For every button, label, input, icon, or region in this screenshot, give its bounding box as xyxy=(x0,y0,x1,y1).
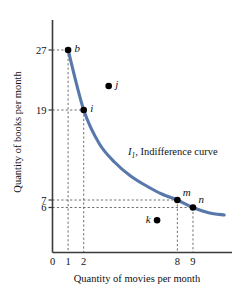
data-point-i xyxy=(80,107,87,114)
indifference-curve xyxy=(68,50,224,215)
y-tick-label-27: 27 xyxy=(36,45,47,56)
chart-canvas: 271976 01289 bijmnk I1, Indifference cur… xyxy=(0,0,237,288)
y-axis-title: Quantity of books per month xyxy=(12,71,23,193)
x-tick-label-8: 8 xyxy=(175,256,180,267)
data-point-b xyxy=(65,47,72,54)
x-tick-label-1: 1 xyxy=(65,256,70,267)
x-tick-label-2: 2 xyxy=(81,256,86,267)
data-point-k xyxy=(154,217,161,224)
data-point-n xyxy=(190,204,197,211)
data-points-group: bijmnk xyxy=(65,42,205,225)
curve-annotation-label: I1, Indifference curve xyxy=(127,146,218,160)
point-label-m: m xyxy=(183,186,191,198)
x-tick-label-0: 0 xyxy=(50,256,55,267)
point-label-n: n xyxy=(198,193,204,205)
point-label-k: k xyxy=(146,213,152,225)
x-tick-group: 01289 xyxy=(50,256,196,267)
y-tick-group: 271976 xyxy=(36,45,53,214)
point-label-i: i xyxy=(90,102,93,114)
indifference-curve-chart: 271976 01289 bijmnk I1, Indifference cur… xyxy=(0,0,237,288)
y-tick-label-6: 6 xyxy=(41,202,46,213)
x-tick-label-9: 9 xyxy=(190,256,195,267)
point-label-j: j xyxy=(113,78,118,90)
point-label-b: b xyxy=(75,42,81,54)
data-point-j xyxy=(105,83,112,90)
data-point-m xyxy=(174,197,181,204)
y-tick-label-19: 19 xyxy=(36,105,47,116)
x-axis-title: Quantity of movies per month xyxy=(74,273,201,284)
